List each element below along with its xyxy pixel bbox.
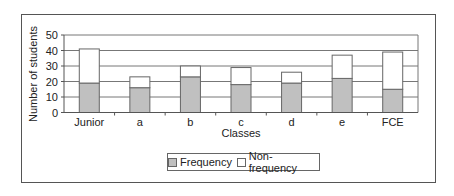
bar-segment: [282, 72, 302, 83]
y-tick-label: 20: [46, 76, 58, 88]
y-axis-ticks: 01020304050: [46, 29, 64, 119]
y-tick-label: 50: [46, 29, 58, 41]
x-tick-label: c: [238, 116, 244, 128]
bar-segment: [180, 66, 200, 77]
bar-segment: [231, 68, 251, 85]
x-tick-label: e: [339, 116, 345, 128]
bar-segment: [383, 52, 403, 89]
bar-segment: [79, 83, 99, 112]
x-axis-ticks: JuniorabcdeFCE: [74, 113, 403, 128]
x-tick-label: b: [187, 116, 193, 128]
bars: [79, 49, 402, 113]
legend-label: Non-frequency: [249, 150, 319, 174]
bar-segment: [383, 89, 403, 112]
bar-segment: [130, 77, 150, 88]
legend-item-frequency: Frequency: [168, 156, 232, 168]
legend-label: Frequency: [180, 156, 232, 168]
legend-swatch-white-icon: [237, 158, 246, 167]
x-tick-label: a: [137, 116, 144, 128]
legend-item-non-frequency: Non-frequency: [237, 150, 319, 174]
y-tick-label: 40: [46, 45, 58, 57]
y-tick-label: 10: [46, 91, 58, 103]
x-axis-title: Classes: [221, 127, 261, 139]
bar-segment: [231, 85, 251, 113]
y-tick-label: 30: [46, 60, 58, 72]
y-axis-title: Number of students: [27, 26, 39, 122]
bar-segment: [130, 88, 150, 113]
y-tick-label: 0: [52, 107, 58, 119]
bar-segment: [79, 49, 99, 83]
x-tick-label: Junior: [74, 116, 104, 128]
bar-segment: [332, 55, 352, 78]
x-tick-label: d: [289, 116, 295, 128]
bar-segment: [282, 83, 302, 112]
bar-segment: [332, 78, 352, 112]
bar-segment: [180, 77, 200, 113]
legend-swatch-gray-icon: [168, 158, 177, 167]
chart-legend: Frequency Non-frequency: [167, 153, 320, 171]
x-tick-label: FCE: [382, 116, 404, 128]
